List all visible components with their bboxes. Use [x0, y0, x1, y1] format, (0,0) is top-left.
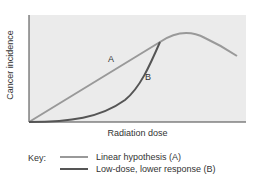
legend-title: Key: [28, 153, 46, 163]
legend-swatch-b [60, 168, 88, 170]
annotation-a: A [108, 54, 114, 64]
legend-swatch-a [60, 156, 88, 158]
legend-item-b: Low-dose, lower response (B) [60, 164, 216, 174]
x-axis-label: Radiation dose [29, 128, 246, 138]
y-axis-label: Cancer incidence [5, 25, 15, 105]
legend-label-a: Linear hypothesis (A) [96, 152, 181, 162]
legend-item-a: Linear hypothesis (A) [60, 152, 181, 162]
legend-label-b: Low-dose, lower response (B) [96, 164, 216, 174]
annotation-b: B [145, 72, 151, 82]
plot-area [29, 15, 246, 122]
